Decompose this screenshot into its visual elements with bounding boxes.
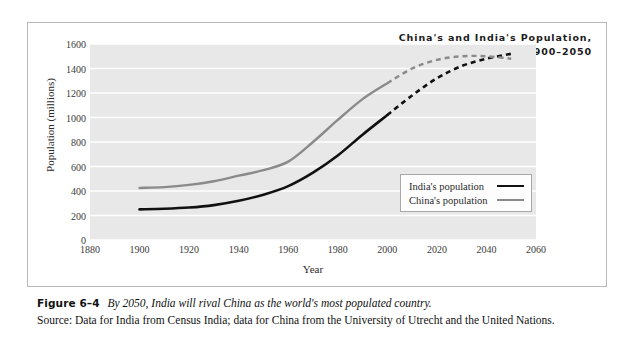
- caption-figure-number: Figure 6–4: [37, 297, 100, 309]
- chart-legend: India's population China's population: [400, 174, 532, 212]
- y-axis-tick-label: 400: [46, 186, 86, 197]
- y-axis-tick-label: 800: [46, 137, 86, 148]
- x-axis-tick-label: 2060: [506, 244, 566, 255]
- series-line-india-projected: [387, 54, 511, 115]
- legend-swatch-china: [497, 199, 524, 201]
- legend-label-india: India's population: [409, 181, 484, 192]
- figure-root: China's and India's Population, 1900–205…: [0, 0, 632, 344]
- y-axis-tick-label: 600: [46, 161, 86, 172]
- y-axis-tick-label: 1000: [46, 112, 86, 123]
- caption-source: Source: Data for India from Census India…: [37, 312, 601, 328]
- x-axis-ticks: 1880190019201940196019802000202020402060: [90, 244, 536, 260]
- chart-frame: China's and India's Population, 1900–205…: [27, 22, 607, 287]
- y-axis-tick-label: 1600: [46, 39, 86, 50]
- series-line-india-historical: [140, 115, 388, 209]
- legend-item-china: China's population: [409, 193, 524, 207]
- y-axis-tick-label: 1200: [46, 88, 86, 99]
- legend-item-india: India's population: [409, 179, 524, 193]
- figure-caption: Figure 6–4By 2050, India will rival Chin…: [27, 294, 607, 328]
- y-axis-tick-label: 200: [46, 210, 86, 221]
- x-axis-label: Year: [90, 263, 536, 275]
- legend-swatch-india: [497, 185, 524, 187]
- legend-label-china: China's population: [409, 195, 488, 206]
- y-axis-tick-label: 1400: [46, 63, 86, 74]
- series-line-china-projected: [387, 56, 511, 83]
- series-line-china-historical: [140, 83, 388, 188]
- y-axis-ticks: 02004006008001000120014001600: [42, 44, 86, 240]
- caption-headline: Figure 6–4By 2050, India will rival Chin…: [37, 296, 601, 312]
- caption-description: By 2050, India will rival China as the w…: [108, 297, 432, 309]
